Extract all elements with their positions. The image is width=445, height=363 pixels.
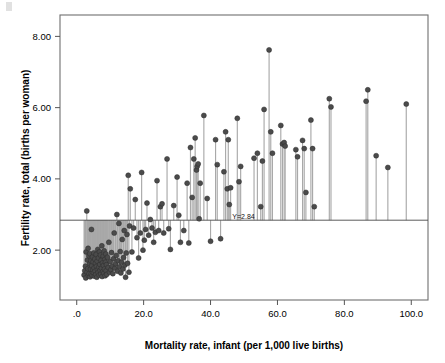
data-point <box>278 123 283 128</box>
data-point <box>126 270 131 275</box>
scatter-plot-figure: .020.040.060.080.0100.0 2.004.006.008.00… <box>0 0 445 363</box>
data-point <box>99 243 104 248</box>
data-point <box>310 146 315 151</box>
reference-line-label: Y=2.84 <box>232 213 254 220</box>
data-point <box>128 186 133 191</box>
data-point <box>260 159 265 164</box>
data-point <box>148 217 153 222</box>
data-point <box>186 241 191 246</box>
annotation-layer: Y=2.84 <box>232 213 254 220</box>
data-point <box>155 178 160 183</box>
data-point <box>84 208 89 213</box>
data-point <box>267 47 272 52</box>
y-axis-tick-label: 2.00 <box>33 245 52 256</box>
data-point <box>226 137 231 142</box>
data-point <box>374 153 379 158</box>
data-point <box>268 129 273 134</box>
y-axis-tick-label: 4.00 <box>33 173 52 184</box>
data-point <box>190 195 195 200</box>
data-point <box>218 236 223 241</box>
data-point <box>138 231 143 236</box>
data-point <box>270 151 275 156</box>
data-point <box>160 201 165 206</box>
data-point <box>255 151 260 156</box>
data-point <box>327 96 332 101</box>
data-point <box>235 116 240 121</box>
data-point <box>124 232 129 237</box>
data-point <box>116 221 121 226</box>
data-point <box>133 197 138 202</box>
data-point <box>385 165 390 170</box>
data-point <box>196 161 201 166</box>
data-point <box>238 164 243 169</box>
data-point <box>144 201 149 206</box>
y-axis-tick-label: 8.00 <box>33 31 52 42</box>
data-point <box>161 231 166 236</box>
data-point <box>283 144 288 149</box>
x-axis-tick-label: 60.0 <box>268 308 287 319</box>
data-point <box>364 99 369 104</box>
chart-canvas: .020.040.060.080.0100.0 2.004.006.008.00… <box>0 0 445 363</box>
x-axis-title: Mortality rate, infant (per 1,000 live b… <box>145 340 343 351</box>
data-point <box>236 179 241 184</box>
data-point <box>121 255 126 260</box>
data-point <box>188 145 193 150</box>
data-point <box>146 233 151 238</box>
x-axis-tick-label: 20.0 <box>134 308 153 319</box>
data-point <box>223 129 228 134</box>
x-axis-tick-label: 100.0 <box>399 308 423 319</box>
data-point <box>252 156 257 161</box>
data-point <box>89 227 94 232</box>
x-axis-tick-label: 40.0 <box>201 308 220 319</box>
data-point <box>114 212 119 217</box>
data-point <box>262 107 267 112</box>
data-point <box>191 156 196 161</box>
data-point <box>302 146 307 151</box>
data-point <box>312 204 317 209</box>
data-point <box>295 154 300 159</box>
data-point <box>140 248 145 253</box>
data-point <box>365 87 370 92</box>
data-point <box>112 231 117 236</box>
data-point <box>139 170 144 175</box>
data-point <box>181 228 186 233</box>
data-point <box>175 175 180 180</box>
data-point <box>120 237 125 242</box>
data-point <box>178 240 183 245</box>
data-point <box>197 216 202 221</box>
data-point-layer <box>82 47 409 280</box>
data-point <box>125 261 130 266</box>
data-point <box>156 228 161 233</box>
data-point <box>165 156 170 161</box>
data-point <box>110 271 115 276</box>
data-point <box>258 204 263 209</box>
data-point <box>143 227 148 232</box>
x-axis-tick-layer: .020.040.060.080.0100.0 <box>73 300 423 319</box>
data-point <box>134 235 139 240</box>
data-point <box>123 275 128 280</box>
data-point <box>86 246 91 251</box>
data-point <box>293 147 298 152</box>
dropline-layer <box>84 50 406 278</box>
data-point <box>114 253 119 258</box>
data-point <box>151 240 156 245</box>
data-point <box>150 226 155 231</box>
x-axis-tick-label: .0 <box>73 308 81 319</box>
y-axis-title: Fertility rate, total (births per woman) <box>20 70 31 247</box>
data-point <box>404 102 409 107</box>
data-point <box>198 181 203 186</box>
data-point <box>166 226 171 231</box>
data-point <box>205 196 210 201</box>
data-point <box>168 247 173 252</box>
x-axis-tick-label: 80.0 <box>335 308 354 319</box>
data-point <box>126 173 131 178</box>
y-axis-tick-label: 6.00 <box>33 102 52 113</box>
data-point <box>215 162 220 167</box>
data-point <box>201 113 206 118</box>
data-point <box>106 240 111 245</box>
data-point <box>142 238 147 243</box>
data-point <box>308 118 313 123</box>
data-point <box>109 250 114 255</box>
data-point <box>228 185 233 190</box>
data-point <box>221 169 226 174</box>
